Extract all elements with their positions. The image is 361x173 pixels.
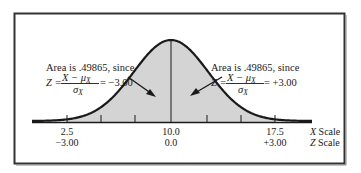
normal-curve-figure: Area is .49865, since Z = X − μX σX = −3… bbox=[0, 0, 361, 173]
z-tick-label: +3.00 bbox=[263, 137, 286, 148]
x-tick-label: 2.5 bbox=[61, 126, 74, 137]
left-denominator: σX bbox=[73, 84, 83, 97]
z-tick-label: 0.0 bbox=[165, 137, 178, 148]
z-scale-labels: −3.00 0.0 +3.00 bbox=[55, 137, 286, 148]
left-z-result: = −3.00 bbox=[100, 77, 133, 88]
x-tick-label: 10.0 bbox=[162, 126, 180, 137]
right-denominator: σX bbox=[238, 84, 248, 97]
left-area-text: Area is .49865, since bbox=[46, 62, 135, 73]
x-tick-label: 17.5 bbox=[266, 126, 284, 137]
right-area-text: Area is .49865, since bbox=[211, 62, 300, 73]
z-scale-name: Z Scale bbox=[310, 137, 340, 148]
x-scale-labels: 2.5 10.0 17.5 bbox=[61, 126, 284, 137]
z-tick-label: −3.00 bbox=[55, 137, 78, 148]
right-z-label: Z = bbox=[211, 77, 227, 88]
x-scale-name: X Scale bbox=[309, 126, 341, 137]
left-z-label: Z = bbox=[46, 77, 62, 88]
right-z-result: = +3.00 bbox=[264, 77, 297, 88]
